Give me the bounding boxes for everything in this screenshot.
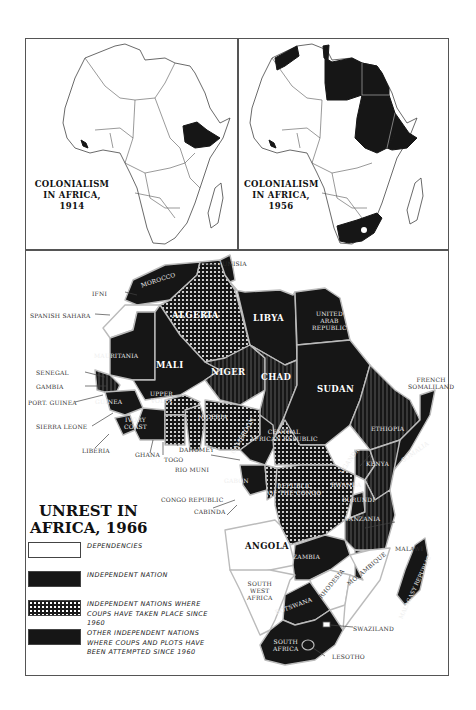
label-south-africa-line2: AFRICA — [273, 645, 299, 652]
legend-label: INDEPENDENT NATIONS WHERE COUPS HAVE TAK… — [87, 600, 222, 629]
label-swa-line2: WEST — [247, 587, 273, 594]
label-libya: LIBYA — [253, 313, 284, 323]
map-1966-title-line1: UNREST IN — [30, 503, 148, 520]
label-uar: UNITED ARAB REPUBLIC — [312, 310, 347, 331]
label-nigeria: NIGERIA — [198, 413, 227, 420]
label-upper-volta-line1: UPPER — [150, 390, 173, 397]
legend-swatch-black — [28, 571, 81, 587]
label-niger: NIGER — [211, 367, 246, 377]
label-ivory-coast-line1: IVORY — [124, 416, 147, 423]
legend-label: OTHER INDEPENDENT NATIONS WHERE COUPS AN… — [87, 629, 222, 658]
map-1956 — [237, 38, 449, 249]
label-uar-line1: UNITED — [312, 310, 347, 317]
map-1914-title: COLONIALISM IN AFRICA, 1914 — [32, 179, 112, 212]
label-angola: ANGOLA — [245, 541, 289, 551]
label-togo: TOGO — [164, 456, 183, 463]
label-congo: REPUBLIC OF THE CONGO — [268, 482, 321, 496]
label-gambia: GAMBIA — [36, 383, 64, 390]
label-lesotho: LESOTHO — [332, 653, 365, 660]
label-french-somaliland-line2: SOMALILAND — [408, 383, 454, 390]
label-car-line1: CENTRAL — [250, 428, 318, 435]
label-liberia: LIBERIA — [82, 447, 110, 454]
label-ivory-coast: IVORY COAST — [124, 416, 147, 430]
label-south-africa: SOUTH AFRICA — [273, 638, 299, 652]
label-algeria: ALGERIA — [172, 310, 219, 320]
legend-item-dependencies: DEPENDENCIES — [28, 542, 222, 558]
label-ghana: GHANA — [135, 451, 160, 458]
label-car-line2: AFRICAN REPUBLIC — [250, 435, 318, 442]
label-sierra-leone: SIERRA LEONE — [36, 423, 87, 430]
label-gabon: GABON — [224, 477, 249, 484]
label-malawi: MALAWI — [395, 545, 423, 552]
label-car: CENTRAL AFRICAN REPUBLIC — [250, 428, 318, 442]
label-upper-volta: UPPER VOLTA — [150, 390, 173, 404]
label-congo-line2: OF THE CONGO — [268, 489, 321, 496]
label-zambia: ZAMBIA — [293, 553, 320, 560]
label-congo-line1: REPUBLIC — [268, 482, 321, 489]
label-french-somaliland-line1: FRENCH — [408, 376, 454, 383]
label-guinea: GUINEA — [95, 398, 122, 405]
legend-item-coups: INDEPENDENT NATIONS WHERE COUPS HAVE TAK… — [28, 600, 222, 629]
legend-item-plots: OTHER INDEPENDENT NATIONS WHERE COUPS AN… — [28, 629, 222, 658]
label-swa-line3: AFRICA — [247, 594, 273, 601]
label-tanzania: TANZANIA — [345, 515, 380, 522]
label-congo-republic: CONGO REPUBLIC — [161, 496, 223, 503]
legend-swatch-white — [28, 542, 81, 558]
legend-swatch-lines — [28, 629, 81, 645]
label-spanish-sahara: SPANISH SAHARA — [30, 312, 90, 319]
label-kenya: KENYA — [366, 460, 389, 467]
label-tunisia: TUNISIA — [218, 260, 247, 267]
legend-label: INDEPENDENT NATION — [87, 571, 222, 581]
map-1914-title-line2: IN AFRICA, 1914 — [32, 190, 112, 212]
label-ifni: IFNI — [92, 290, 107, 297]
label-port-guinea: PORT. GUINEA — [28, 399, 77, 406]
label-south-west-africa: SOUTH WEST AFRICA — [247, 580, 273, 601]
label-dahomey: DAHOMEY — [179, 446, 214, 453]
label-sudan: SUDAN — [317, 384, 354, 394]
label-rio-muni: RIO MUNI — [175, 466, 209, 473]
label-ivory-coast-line2: COAST — [124, 423, 147, 430]
map-1956-title-line2: IN AFRICA, 1956 — [244, 190, 318, 212]
map-1966-title: UNREST IN AFRICA, 1966 — [30, 503, 148, 537]
label-cabinda: CABINDA — [194, 508, 226, 515]
label-chad: CHAD — [261, 372, 291, 382]
label-swaziland: SWAZILAND — [353, 625, 394, 632]
legend-label: DEPENDENCIES — [87, 542, 222, 552]
label-ethiopia: ETHIOPIA — [371, 425, 404, 432]
label-rwanda: RWANDA — [331, 481, 361, 488]
map-1914-title-line1: COLONIALISM — [32, 179, 112, 190]
label-mali: MALI — [156, 360, 184, 370]
label-senegal: SENEGAL — [36, 369, 69, 376]
label-burundi: BURUNDI — [342, 496, 375, 503]
legend-swatch-dots — [28, 600, 81, 616]
label-mauritania: MAURITANIA — [94, 352, 138, 359]
label-swa-line1: SOUTH — [247, 580, 273, 587]
legend-item-independent: INDEPENDENT NATION — [28, 571, 222, 587]
label-uar-line3: REPUBLIC — [312, 324, 347, 331]
label-upper-volta-line2: VOLTA — [150, 397, 173, 404]
map-1956-title-line1: COLONIALISM — [244, 179, 318, 190]
label-french-somaliland: FRENCH SOMALILAND — [408, 376, 454, 390]
map-1966-title-line2: AFRICA, 1966 — [30, 520, 148, 537]
label-uar-line2: ARAB — [312, 317, 347, 324]
map-1956-title: COLONIALISM IN AFRICA, 1956 — [244, 179, 318, 212]
map-1914 — [25, 38, 237, 249]
label-south-africa-line1: SOUTH — [273, 638, 299, 645]
